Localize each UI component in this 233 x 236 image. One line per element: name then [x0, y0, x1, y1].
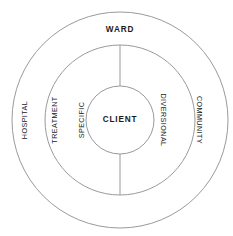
- ward-label: WARD: [106, 25, 134, 34]
- concentric-circle-diagram: WARD CLIENT HOSPITAL COMMUNITY TREATMENT…: [0, 0, 233, 236]
- client-label: CLIENT: [103, 115, 137, 124]
- community-label: COMMUNITY: [195, 96, 203, 144]
- treatment-specific-label: TREATMENT SPECIFIC: [32, 96, 104, 143]
- treatment-specific-line-2: SPECIFIC: [77, 96, 86, 143]
- diversional-label: DIVERSIONAL: [159, 93, 167, 146]
- hospital-label: HOSPITAL: [21, 101, 29, 139]
- treatment-specific-line-1: TREATMENT: [50, 96, 59, 143]
